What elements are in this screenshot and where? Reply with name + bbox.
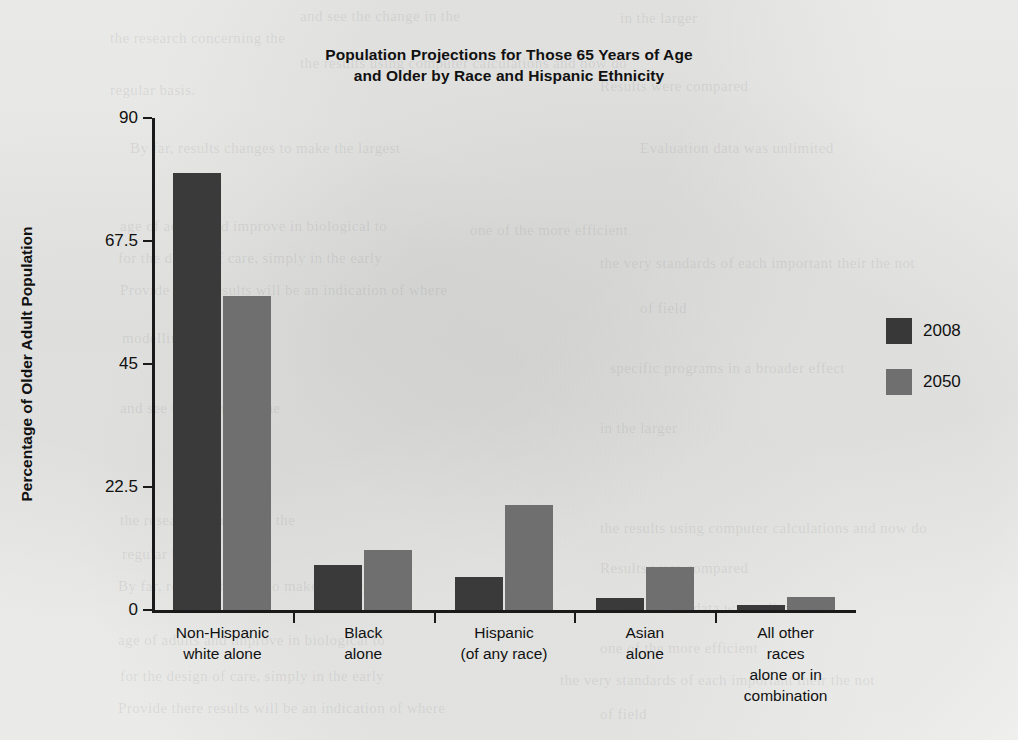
y-axis-title: Percentage of Older Adult Population	[14, 118, 38, 610]
bar-2050-1	[223, 296, 271, 610]
bar-2050-4	[646, 567, 694, 610]
legend-swatch-2050-icon	[886, 369, 912, 395]
chart-title: Population Projections for Those 65 Year…	[0, 44, 1018, 86]
background-ghost-line: and see the change in the	[300, 8, 460, 25]
x-axis-category-label: Black alone	[344, 622, 382, 664]
y-axis-tick-label: 0	[129, 600, 138, 620]
y-axis-tick-label: 67.5	[105, 231, 138, 251]
y-axis-tick	[143, 486, 152, 488]
chart-title-line-1: Population Projections for Those 65 Year…	[0, 44, 1018, 65]
bar-2050-5	[787, 597, 835, 610]
legend-swatch-2008-icon	[886, 318, 912, 344]
bar-2008-3	[455, 577, 503, 610]
y-axis-tick	[143, 117, 152, 119]
x-axis-category-label: Hispanic (of any race)	[460, 622, 547, 664]
y-axis-tick	[143, 363, 152, 365]
bar-2008-1	[173, 173, 221, 610]
legend-label-2050: 2050	[923, 372, 961, 392]
y-axis-tick-label: 45	[119, 354, 138, 374]
bar-2050-2	[364, 550, 412, 610]
plot-area: 022.54567.590	[152, 118, 856, 610]
bar-2050-3	[505, 505, 553, 610]
y-axis-tick	[143, 240, 152, 242]
bar-2008-4	[596, 598, 644, 610]
x-axis-category-label: Asian alone	[625, 622, 664, 664]
chart-legend: 2008 2050	[886, 318, 961, 420]
legend-item-2050: 2050	[886, 369, 961, 395]
x-axis-category-label: Non-Hispanic white alone	[176, 622, 269, 664]
legend-label-2008: 2008	[923, 321, 961, 341]
y-axis-tick-label: 22.5	[105, 477, 138, 497]
y-axis-tick-label: 90	[119, 108, 138, 128]
y-axis-title-label: Percentage of Older Adult Population	[17, 226, 35, 501]
y-axis-tick	[143, 609, 152, 611]
chart-title-line-2: and Older by Race and Hispanic Ethnicity	[0, 65, 1018, 86]
x-axis-category-label: All other races alone or in combination	[744, 622, 828, 706]
legend-item-2008: 2008	[886, 318, 961, 344]
bar-2008-5	[737, 605, 785, 610]
background-ghost-line: in the larger	[620, 10, 697, 27]
bar-2008-2	[314, 565, 362, 610]
x-axis-category-labels: Non-Hispanic white aloneBlack aloneHispa…	[152, 622, 856, 722]
x-axis-line	[152, 610, 856, 613]
y-axis-line	[152, 118, 155, 610]
